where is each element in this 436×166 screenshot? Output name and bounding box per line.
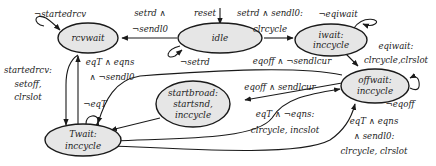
edge-offwait-self [410, 77, 419, 90]
label-idle-rcvwait-2: ¬sendl0 [132, 24, 168, 34]
label-offwait-self: ¬eqoff [385, 99, 416, 109]
svg-text:iwait:: iwait: [319, 30, 344, 40]
state-diagram: rcvwait idle iwait: inccycle offwait: in… [0, 0, 436, 166]
label-twait-offwait1-1: eqT ∧ ¬eqns: [256, 109, 315, 119]
label-twait-offwait1-2: clrcycle, incslot [251, 125, 320, 135]
label-idle-iwait-1: setrd ∧ sendl0: [237, 8, 303, 18]
svg-text:inccycle: inccycle [313, 40, 349, 50]
state-startbroad: startbroad: startsnd, inccycle [156, 81, 230, 127]
state-twait: Twait: inccycle [45, 124, 121, 156]
label-offwait-twait: eqoff ∧ ¬sendlcur [253, 56, 332, 66]
state-rcvwait: rcvwait [58, 23, 118, 53]
label-iwait-offwait-1: eqiwait: [379, 41, 414, 51]
svg-text:Twait:: Twait: [69, 129, 97, 139]
edge-startbroad-twait [111, 118, 160, 130]
label-twait-self: ¬eqT [83, 99, 108, 109]
edge-idle-self [168, 46, 182, 57]
label-rcvwait-twait-2: setoff, [15, 79, 42, 89]
edge-iwait-self [354, 19, 377, 28]
state-iwait: iwait: inccycle [295, 24, 367, 56]
label-twait-rcvwait-2: ∧ ¬sendl0 [90, 72, 136, 82]
label-twait-offwait2-1: eqT ∧ eqns [350, 116, 399, 126]
label-iwait-offwait-2: clrcycle,clrslot [364, 55, 429, 65]
svg-text:offwait:: offwait: [358, 75, 392, 85]
label-rcvwait-twait-1: startedrcv: [4, 65, 52, 75]
edge-rcvwait-twait [66, 55, 78, 125]
svg-text:inccycle: inccycle [65, 141, 101, 151]
label-twait-rcvwait-1: eqT ∧ eqns [86, 57, 135, 67]
svg-text:idle: idle [212, 33, 228, 43]
svg-text:startbroad:: startbroad: [168, 88, 218, 98]
label-offwait-startbroad: eqoff ∧ sendlcur [244, 82, 316, 92]
svg-text:rcvwait: rcvwait [71, 33, 105, 43]
label-idle-iwait-2: clrcycle [253, 24, 287, 34]
label-idle-rcvwait-1: setrd ∧ [134, 8, 166, 18]
label-twait-offwait2-2: ∧ sendl0: [354, 131, 395, 141]
label-iwait-self: ¬eqiwait [318, 9, 358, 19]
state-offwait: offwait: inccycle [341, 69, 409, 103]
svg-text:startsnd,: startsnd, [173, 99, 213, 109]
svg-text:inccycle: inccycle [357, 86, 393, 96]
label-reset: reset [194, 8, 217, 18]
label-rcvwait-twait-3: clrslot [14, 92, 42, 102]
label-rcvwait-self: ¬startedrcv [34, 9, 86, 19]
label-twait-offwait2-3: clrcycle, clrslot [341, 146, 408, 156]
state-idle: idle [178, 23, 262, 53]
label-idle-self: ¬setrd [180, 57, 210, 67]
svg-text:inccycle: inccycle [175, 110, 211, 120]
